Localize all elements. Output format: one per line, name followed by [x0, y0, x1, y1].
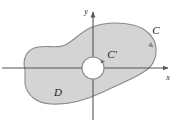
outer-curve-label-c: C	[152, 24, 160, 36]
math-diagram-svg: D C C′ x y	[0, 0, 189, 127]
figure-container: D C C′ x y	[0, 0, 189, 127]
inner-curve-label-c-prime: C′	[107, 48, 117, 60]
y-axis-label: y	[83, 7, 88, 16]
x-axis-label: x	[165, 73, 170, 82]
region-label-d: D	[53, 86, 62, 98]
